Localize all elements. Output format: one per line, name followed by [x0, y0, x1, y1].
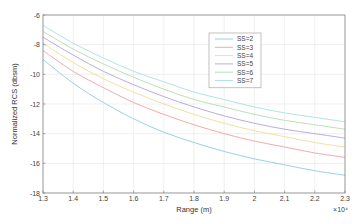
x-tick-label: 2.1 — [280, 195, 290, 202]
y-tick-label: -16 — [30, 160, 40, 167]
y-tick-label: -10 — [30, 71, 40, 78]
y-tick-label: -14 — [30, 130, 40, 137]
grid-lines — [43, 15, 345, 193]
legend-box — [209, 33, 261, 88]
x-tick-label: 2.2 — [310, 195, 320, 202]
x-tick-label: 1.7 — [159, 195, 169, 202]
legend-entry: SS=6 — [237, 69, 253, 76]
legend-entry: SS=7 — [237, 77, 253, 84]
x-tick-label: 1.5 — [99, 195, 109, 202]
y-tick-label: -12 — [30, 101, 40, 108]
y-axis-label: Normalized RCS (dbsm) — [10, 63, 19, 145]
x-tick-label: 1.4 — [68, 195, 78, 202]
x-axis-exponent: ×10⁴ — [333, 206, 348, 213]
legend: SS=2SS=3SS=4SS=5SS=6SS=7 — [209, 33, 261, 88]
y-tick-label: -8 — [34, 41, 40, 48]
y-tick-label: -18 — [30, 190, 40, 197]
x-tick-label: 1.9 — [219, 195, 229, 202]
legend-entry: SS=3 — [237, 44, 253, 51]
x-tick-label: 1.8 — [189, 195, 199, 202]
legend-entry: SS=2 — [237, 35, 253, 42]
line-chart: 1.31.41.51.61.71.81.922.12.22.3 -6-8-10-… — [0, 0, 361, 224]
x-tick-label: 2.3 — [340, 195, 350, 202]
x-tick-label: 1.6 — [129, 195, 139, 202]
x-tick-label: 2 — [252, 195, 256, 202]
legend-entry: SS=5 — [237, 60, 253, 67]
legend-entry: SS=4 — [237, 52, 253, 59]
y-tick-label: -6 — [34, 12, 40, 19]
x-axis-ticks: 1.31.41.51.61.71.81.922.12.22.3 — [38, 191, 350, 203]
x-axis-label: Range (m) — [176, 205, 212, 214]
